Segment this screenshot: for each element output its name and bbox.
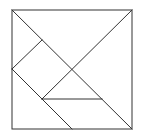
background [0,0,141,133]
tangram-diagram [0,0,141,133]
